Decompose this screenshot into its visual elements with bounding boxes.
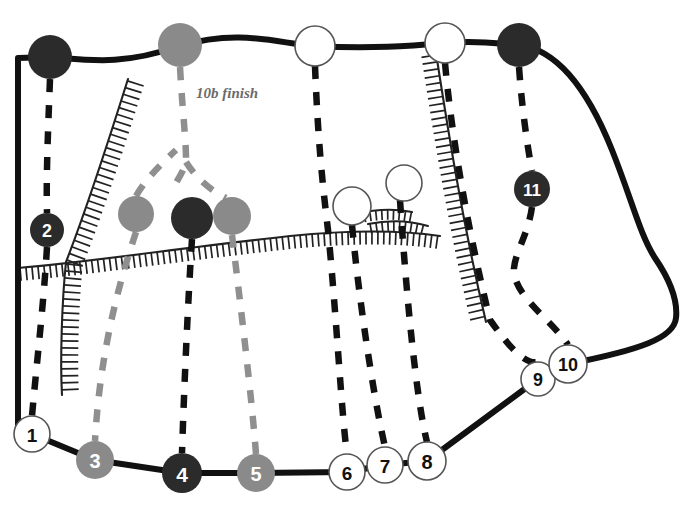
hachure-tick (425, 76, 440, 78)
route-marker-1[interactable]: 1 (14, 416, 50, 452)
marker-circle[interactable] (295, 26, 335, 66)
hachure-tick (457, 255, 472, 258)
marker-number-label: 6 (342, 463, 353, 484)
hachure-tick (276, 238, 277, 251)
hachure-ridge (421, 53, 486, 322)
hachure-tick (455, 248, 470, 251)
hachure-tick (318, 234, 319, 247)
hachure-tick (464, 289, 479, 292)
hachure-tick (452, 234, 467, 237)
hachure-tick (324, 233, 325, 246)
hachure-tick (436, 236, 438, 249)
route-line-route-3u[interactable] (136, 150, 176, 196)
anchor-a-mid-gray-2[interactable] (213, 197, 251, 235)
hachure-tick (438, 159, 453, 162)
anchor-a-top-left[interactable] (28, 35, 72, 79)
marker-circle[interactable] (28, 35, 72, 79)
hachure-tick (443, 186, 458, 189)
anchor-a-mid-dark[interactable] (171, 197, 213, 239)
hachure-tick (115, 121, 131, 126)
route-line-route-9[interactable] (445, 63, 538, 362)
marker-circle[interactable] (497, 23, 541, 67)
anchor-a-mid-gray-1[interactable] (118, 196, 154, 232)
route-line-route-6[interactable] (315, 66, 347, 454)
anchor-circles-layer (28, 23, 541, 239)
route-line-route-7[interactable] (352, 225, 385, 447)
hachure-tick (459, 269, 474, 272)
route-line-route-11b[interactable] (514, 207, 568, 345)
anchor-a-mid-white-1[interactable] (333, 187, 371, 225)
hachure-tick (109, 258, 111, 271)
marker-circle[interactable] (386, 165, 422, 201)
hachure-tick (448, 214, 463, 217)
hachure-tick (145, 254, 147, 267)
marker-number-label: 9 (533, 370, 543, 390)
hachure-tick (435, 138, 450, 140)
route-marker-4[interactable]: 4 (162, 453, 202, 493)
hachure-tick (441, 172, 456, 175)
climbing-topo-diagram: 1234567891011 10b finish (0, 0, 694, 505)
hachure-tick (429, 103, 444, 105)
route-marker-7[interactable]: 7 (367, 447, 403, 483)
hachure-tick (175, 250, 177, 263)
hachure-tick (451, 227, 466, 230)
hachure-tick (434, 131, 449, 133)
hachure-tick (65, 271, 82, 273)
hachure-tick (454, 241, 469, 244)
hachure-tick (157, 252, 159, 265)
anchor-a-top-gray[interactable] (158, 23, 202, 67)
hachure-tick (424, 69, 439, 71)
route-marker-10[interactable]: 10 (549, 345, 587, 383)
hachure-tick (424, 234, 425, 247)
hachure-tick (211, 245, 213, 258)
route-marker-2[interactable]: 2 (30, 213, 64, 247)
route-marker-11[interactable]: 11 (514, 171, 550, 207)
hachure-tick (117, 114, 133, 119)
hachure-tick (199, 247, 201, 260)
route-line-route-10b-branch[interactable] (186, 162, 226, 198)
route-line-route-5[interactable] (232, 235, 256, 454)
route-line-route-10b[interactable] (172, 67, 186, 192)
hachure-tick (79, 227, 95, 233)
hachure-ridge (61, 262, 82, 395)
route-marker-5[interactable]: 5 (237, 454, 275, 492)
marker-circle[interactable] (171, 197, 213, 239)
hachure-tick (467, 303, 482, 306)
hachure-tick (64, 285, 81, 286)
route-marker-3[interactable]: 3 (76, 441, 114, 479)
anchor-a-top-white-1[interactable] (295, 26, 335, 66)
annotation-finish-label: 10b finish (196, 85, 258, 101)
route-marker-8[interactable]: 8 (408, 442, 446, 480)
hachure-tick (442, 179, 457, 182)
route-marker-6[interactable]: 6 (329, 454, 365, 490)
hachure-tick (88, 201, 104, 207)
hachure-tick (270, 238, 271, 251)
hachure-tick (205, 246, 207, 259)
anchor-a-top-white-2[interactable] (425, 23, 465, 63)
route-line-route-4[interactable] (182, 239, 192, 453)
anchor-a-top-dark[interactable] (497, 23, 541, 67)
hachure-tick (423, 62, 438, 64)
anchor-a-mid-white-2[interactable] (386, 165, 422, 201)
hachure-tick (294, 236, 295, 249)
hachure-tick (86, 261, 88, 274)
hachure-tick (102, 161, 118, 166)
hachure-tick (436, 145, 451, 148)
marker-circle[interactable] (333, 187, 371, 225)
hachure-tick (133, 255, 135, 268)
route-line-route-11[interactable] (519, 67, 532, 171)
hachure-tick (437, 152, 452, 155)
hachure-tick (229, 243, 231, 256)
marker-circle[interactable] (118, 196, 154, 232)
marker-number-label: 4 (176, 463, 188, 486)
route-line-route-1[interactable] (47, 79, 50, 213)
marker-circle[interactable] (425, 23, 465, 63)
hachure-tick (465, 296, 480, 299)
hachure-tick (382, 210, 383, 220)
marker-circle[interactable] (213, 197, 251, 235)
hachure-tick (382, 222, 383, 232)
hachure-tick (427, 90, 442, 92)
hachure-tick (26, 267, 27, 280)
topo-canvas: 1234567891011 10b finish (0, 0, 694, 505)
marker-circle[interactable] (158, 23, 202, 67)
